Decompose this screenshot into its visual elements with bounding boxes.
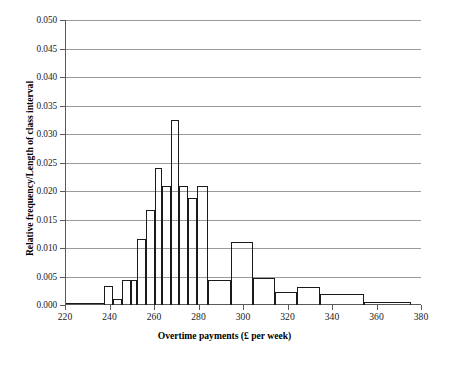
- histogram-bar: [137, 239, 146, 305]
- histogram-bar: [297, 287, 319, 305]
- y-axis-tick: [60, 134, 65, 135]
- y-axis-tick-label: 0.010: [37, 243, 57, 253]
- y-axis-tick-label: 0.050: [37, 15, 57, 25]
- x-axis-tick-label: 220: [58, 311, 72, 322]
- x-axis-tick-label: 260: [147, 311, 161, 322]
- histogram-bar: [104, 286, 113, 305]
- y-gridline: [66, 49, 421, 50]
- y-axis-tick: [60, 191, 65, 192]
- x-axis-tick-label: 280: [191, 311, 205, 322]
- y-axis-tick-label: 0.030: [37, 129, 57, 139]
- histogram-bar: [122, 280, 131, 305]
- histogram-bar: [231, 242, 253, 305]
- y-axis-tick: [60, 220, 65, 221]
- x-axis-tick-label: 380: [414, 311, 428, 322]
- y-gridline: [66, 220, 421, 221]
- histogram-bar: [179, 186, 188, 305]
- x-axis-tick-label: 300: [236, 311, 250, 322]
- histogram-bar: [146, 210, 155, 305]
- y-axis-tick: [60, 106, 65, 107]
- histogram-bar: [253, 278, 275, 305]
- plot-area: [65, 20, 421, 305]
- histogram-bar: [171, 120, 180, 305]
- x-axis-tick-label: 320: [280, 311, 294, 322]
- y-axis-tick: [60, 49, 65, 50]
- y-axis-tick-label: 0.015: [37, 215, 57, 225]
- histogram-bar: [155, 168, 162, 305]
- histogram-bar: [320, 294, 365, 305]
- x-axis-tick: [110, 305, 111, 310]
- histogram-bar: [364, 302, 411, 305]
- y-axis-tick: [60, 163, 65, 164]
- x-axis-tick: [243, 305, 244, 310]
- y-gridline: [66, 20, 421, 21]
- y-gridline: [66, 106, 421, 107]
- histogram-chart: Relative frequency/Length of class inter…: [0, 0, 449, 365]
- y-axis-tick: [60, 277, 65, 278]
- histogram-bar: [197, 186, 208, 305]
- y-gridline: [66, 134, 421, 135]
- y-gridline: [66, 77, 421, 78]
- histogram-bar: [275, 292, 297, 305]
- x-axis-tick: [377, 305, 378, 310]
- y-gridline: [66, 191, 421, 192]
- y-axis-title: Relative frequency/Length of class inter…: [24, 54, 35, 284]
- y-axis-tick-label: 0.025: [37, 158, 57, 168]
- histogram-bar: [66, 303, 104, 305]
- y-axis-tick-label: 0.020: [37, 186, 57, 196]
- y-gridline: [66, 163, 421, 164]
- histogram-bar: [162, 186, 171, 305]
- x-axis-tick: [65, 305, 66, 310]
- y-axis-tick-label: 0.000: [37, 300, 57, 310]
- x-axis-tick-label: 340: [325, 311, 339, 322]
- y-axis-tick: [60, 77, 65, 78]
- y-axis-tick-label: 0.040: [37, 72, 57, 82]
- x-axis-tick: [154, 305, 155, 310]
- y-axis-tick-label: 0.035: [37, 101, 57, 111]
- y-axis-tick-label: 0.045: [37, 44, 57, 54]
- histogram-bar: [188, 198, 197, 305]
- x-axis-tick: [288, 305, 289, 310]
- histogram-bar: [131, 280, 138, 305]
- y-axis-tick-label: 0.005: [37, 272, 57, 282]
- x-axis-tick-label: 360: [369, 311, 383, 322]
- x-axis-tick-label: 240: [102, 311, 116, 322]
- x-axis-tick: [421, 305, 422, 310]
- x-axis-title: Overtime payments (£ per week): [0, 330, 449, 341]
- x-axis-tick: [199, 305, 200, 310]
- y-axis-tick: [60, 20, 65, 21]
- y-axis-tick: [60, 248, 65, 249]
- x-axis-tick: [332, 305, 333, 310]
- histogram-bar: [113, 299, 122, 305]
- histogram-bar: [208, 280, 230, 305]
